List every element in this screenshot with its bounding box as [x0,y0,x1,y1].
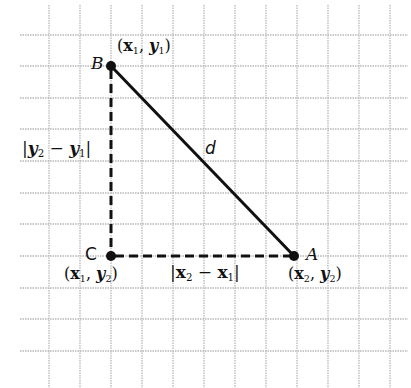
point-A [289,251,299,261]
point-C [106,251,116,261]
label-vertical-distance: |y2 − y1| [22,140,91,159]
label-coord-B: (x1, y1) [117,38,171,56]
label-point-A: A [306,246,318,263]
label-point-C: C [85,246,97,263]
label-point-B: B [91,55,104,72]
label-coord-C: (x1, y2) [64,266,118,284]
coordinate-grid-diagram [0,0,411,388]
label-distance-d: d [205,140,216,157]
label-coord-A: (x2, y2) [288,266,342,284]
point-B [106,61,116,71]
grid-lines [20,5,408,388]
label-horizontal-distance: |x2 − x1| [170,264,240,283]
